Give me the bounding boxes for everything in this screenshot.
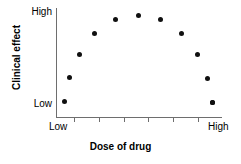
x-axis-tick-label-high: High	[208, 121, 229, 132]
y-axis-title: Clinical effect	[11, 8, 22, 108]
x-axis-title: Dose of drug	[0, 141, 241, 152]
data-point	[158, 17, 163, 22]
data-point	[92, 31, 97, 36]
data-point	[113, 17, 118, 22]
data-point	[62, 99, 67, 104]
data-point	[195, 52, 200, 57]
chart-figure: Clinical effect High Low Low High Dose o…	[0, 0, 241, 164]
data-point	[179, 31, 184, 36]
x-axis-tick-2	[124, 118, 125, 122]
y-axis-tick-label-high: High	[18, 6, 52, 17]
y-axis-tick-label-low: Low	[18, 98, 52, 109]
data-point	[205, 76, 210, 81]
data-point	[77, 52, 82, 57]
data-point	[210, 100, 215, 105]
x-axis-tick-0	[74, 118, 75, 122]
plot-area	[0, 0, 241, 164]
y-axis-line	[56, 8, 57, 118]
x-axis-tick-4	[173, 118, 174, 122]
data-point	[210, 100, 215, 105]
x-axis-tick-label-low: Low	[49, 121, 67, 132]
data-point	[136, 13, 141, 18]
x-axis-tick-3	[148, 118, 149, 122]
x-axis-tick-1	[99, 118, 100, 122]
data-point	[67, 75, 72, 80]
x-axis-tick-5	[198, 118, 199, 122]
